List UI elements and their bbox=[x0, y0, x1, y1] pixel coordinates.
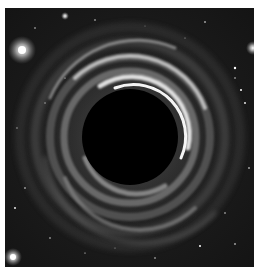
black-hole-illustration bbox=[5, 8, 254, 267]
black-hole-image bbox=[5, 8, 254, 267]
event-horizon bbox=[82, 89, 178, 185]
